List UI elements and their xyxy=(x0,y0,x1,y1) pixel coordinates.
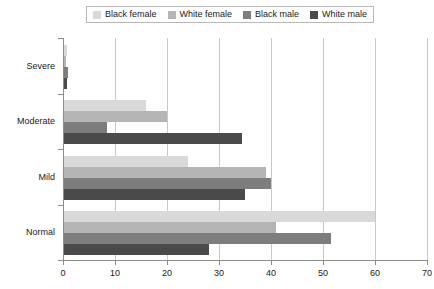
bar-moderate-black-male[interactable] xyxy=(63,122,107,133)
y-tick-boundary-0 xyxy=(58,38,63,39)
gridline-x-70 xyxy=(427,38,428,260)
gridline-x-50 xyxy=(323,38,324,260)
legend-swatch-icon xyxy=(168,11,176,19)
bar-moderate-black-female[interactable] xyxy=(63,100,146,111)
legend-swatch-icon xyxy=(93,11,101,19)
legend-item-label: Black male xyxy=(255,10,299,19)
legend-item-label: White female xyxy=(180,10,233,19)
legend-swatch-icon xyxy=(310,11,318,19)
bar-mild-white-male[interactable] xyxy=(63,189,245,200)
legend-item-label: Black female xyxy=(105,10,157,19)
x-tick-70 xyxy=(427,260,428,265)
x-tick-40 xyxy=(271,260,272,265)
x-tick-label: 40 xyxy=(266,268,276,278)
x-axis-line xyxy=(63,260,427,261)
chart-figure: Black femaleWhite femaleBlack maleWhite … xyxy=(0,0,434,289)
chart-legend: Black femaleWhite femaleBlack maleWhite … xyxy=(86,6,374,23)
x-tick-label: 0 xyxy=(60,268,65,278)
bar-mild-black-female[interactable] xyxy=(63,156,188,167)
y-axis-line xyxy=(63,38,64,260)
x-tick-label: 70 xyxy=(422,268,432,278)
x-tick-label: 60 xyxy=(370,268,380,278)
legend-item-black-female[interactable]: Black female xyxy=(93,10,157,19)
x-tick-30 xyxy=(219,260,220,265)
bar-moderate-white-male[interactable] xyxy=(63,133,242,144)
x-tick-10 xyxy=(115,260,116,265)
y-tick-boundary-2 xyxy=(58,149,63,150)
bar-normal-white-male[interactable] xyxy=(63,244,209,255)
x-tick-0 xyxy=(63,260,64,265)
y-tick-boundary-end xyxy=(58,260,63,261)
legend-swatch-icon xyxy=(243,11,251,19)
x-tick-label: 10 xyxy=(110,268,120,278)
y-category-label-mild: Mild xyxy=(0,172,55,182)
gridline-x-60 xyxy=(375,38,376,260)
x-tick-20 xyxy=(167,260,168,265)
legend-item-white-male[interactable]: White male xyxy=(310,10,367,19)
y-tick-boundary-1 xyxy=(58,94,63,95)
bar-mild-white-female[interactable] xyxy=(63,167,266,178)
bar-normal-white-female[interactable] xyxy=(63,222,276,233)
y-category-label-severe: Severe xyxy=(0,61,55,71)
x-tick-50 xyxy=(323,260,324,265)
bar-normal-black-female[interactable] xyxy=(63,211,375,222)
bar-normal-black-male[interactable] xyxy=(63,233,331,244)
x-tick-60 xyxy=(375,260,376,265)
plot-area xyxy=(63,38,427,260)
x-tick-label: 20 xyxy=(162,268,172,278)
x-tick-label: 30 xyxy=(214,268,224,278)
x-tick-label: 50 xyxy=(318,268,328,278)
legend-item-black-male[interactable]: Black male xyxy=(243,10,299,19)
y-tick-boundary-3 xyxy=(58,205,63,206)
bar-moderate-white-female[interactable] xyxy=(63,111,167,122)
y-category-label-normal: Normal xyxy=(0,227,55,237)
legend-item-white-female[interactable]: White female xyxy=(168,10,233,19)
legend-item-label: White male xyxy=(322,10,367,19)
y-category-label-moderate: Moderate xyxy=(0,116,55,126)
bar-mild-black-male[interactable] xyxy=(63,178,271,189)
